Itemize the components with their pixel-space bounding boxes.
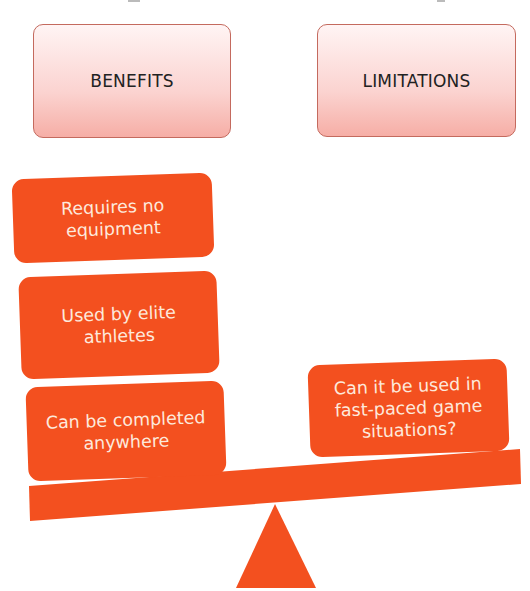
fulcrum-triangle [236,504,316,588]
benefit-tile-no-equipment: Requires no equipment [12,173,215,264]
benefit-tile-anywhere: Can be completed anywhere [25,381,226,482]
benefit-tile-elite-athletes: Used by elite athletes [18,271,219,380]
limitation-text: Can it be used in fast-paced game situat… [327,372,489,444]
benefit-text: Used by elite athletes [53,301,184,350]
benefit-text: Requires no equipment [47,194,178,243]
limitation-tile-fast-paced: Can it be used in fast-paced game situat… [307,359,509,458]
benefit-text: Can be completed anywhere [36,406,215,456]
